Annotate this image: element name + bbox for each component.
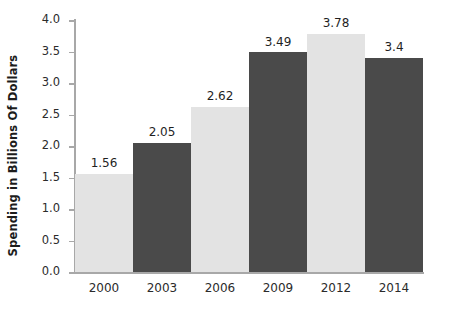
x-tick-label-2003: 2003 bbox=[133, 282, 191, 294]
bar-2014[interactable] bbox=[365, 58, 423, 272]
bar-value-2009: 3.49 bbox=[265, 36, 292, 48]
bar-value-2012: 3.78 bbox=[323, 17, 350, 29]
bar-value-2003: 2.05 bbox=[149, 126, 176, 138]
x-tick-label-2012: 2012 bbox=[307, 282, 365, 294]
x-tick-label-2006: 2006 bbox=[191, 282, 249, 294]
bar-2006[interactable] bbox=[191, 107, 249, 272]
bar-group-2006: 2.62 bbox=[191, 20, 249, 272]
y-axis-title: Spending in Billions Of Dollars bbox=[0, 0, 26, 311]
y-tick-label-2-0: 2.0 bbox=[42, 140, 60, 152]
plot-area: 4.0 3.5 3.0 2.5 2.0 1.5 1.0 0.5 0.0 bbox=[75, 20, 423, 272]
bar-group-2009: 3.49 bbox=[249, 20, 307, 272]
y-tick-label-4-0: 4.0 bbox=[42, 14, 60, 26]
bar-value-2014: 3.4 bbox=[384, 41, 403, 53]
bar-value-2000: 1.56 bbox=[91, 157, 118, 169]
x-axis-spine bbox=[74, 272, 424, 274]
bar-value-2006: 2.62 bbox=[207, 90, 234, 102]
bar-2000[interactable] bbox=[75, 174, 133, 272]
y-tick-0-0: 0.0 bbox=[69, 272, 75, 274]
bar-chart: Spending in Billions Of Dollars 4.0 3.5 … bbox=[0, 0, 449, 311]
y-tick-label-1-0: 1.0 bbox=[42, 203, 60, 215]
bar-group-2000: 1.56 bbox=[75, 20, 133, 272]
y-tick-label-3-5: 3.5 bbox=[42, 46, 60, 58]
y-tick-label-2-5: 2.5 bbox=[42, 109, 60, 121]
y-tick-label-3-0: 3.0 bbox=[42, 77, 60, 89]
x-tick-label-2009: 2009 bbox=[249, 282, 307, 294]
x-tick-label-2000: 2000 bbox=[75, 282, 133, 294]
bar-group-2003: 2.05 bbox=[133, 20, 191, 272]
bar-2012[interactable] bbox=[307, 34, 365, 272]
bar-2003[interactable] bbox=[133, 143, 191, 272]
bar-2009[interactable] bbox=[249, 52, 307, 272]
y-tick-label-1-5: 1.5 bbox=[42, 172, 60, 184]
bar-group-2014: 3.4 bbox=[365, 20, 423, 272]
bar-group-2012: 3.78 bbox=[307, 20, 365, 272]
y-tick-label-0-0: 0.0 bbox=[42, 266, 60, 278]
bars-layer: 1.56 2.05 2.62 3.49 3.78 3.4 bbox=[75, 20, 423, 272]
y-tick-label-0-5: 0.5 bbox=[42, 235, 60, 247]
x-tick-label-2014: 2014 bbox=[365, 282, 423, 294]
